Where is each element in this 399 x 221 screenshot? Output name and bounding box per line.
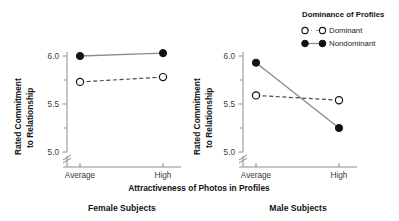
data-point-nondominant-high-right[interactable] xyxy=(335,124,342,131)
panel-caption-male: Male Subjects xyxy=(269,203,327,213)
data-point-nondominant-average-left[interactable] xyxy=(76,52,83,59)
legend-entry-dominant[interactable]: Dominant xyxy=(302,26,363,35)
data-point-dominant-high-left[interactable] xyxy=(159,74,166,81)
series-dominant-right[interactable] xyxy=(252,92,342,104)
series-nondominant-right[interactable] xyxy=(252,59,342,132)
data-point-dominant-average-right[interactable] xyxy=(252,92,259,99)
y-tick-label-5-5: 5.5 xyxy=(48,100,60,109)
y-tick-label-6-0-right: 6.0 xyxy=(224,52,236,61)
y-tick-label-5-5-right: 5.5 xyxy=(224,100,236,109)
legend-label-nondominant: Nondominant xyxy=(329,39,376,48)
y-tick-label-5-0-right: 5.0 xyxy=(224,148,236,157)
data-point-nondominant-average-right[interactable] xyxy=(252,59,259,66)
y-axis-break-left xyxy=(63,155,71,167)
x-category-label-high-right: High xyxy=(331,171,348,180)
y-axis-label-line2-right: to Relationship xyxy=(204,88,214,149)
x-axis-title: Attractiveness of Photos in Profiles xyxy=(128,183,270,193)
open-circle-icon-2 xyxy=(319,27,325,33)
series-line-dominant-left xyxy=(80,77,163,82)
data-point-dominant-high-right[interactable] xyxy=(335,97,342,104)
y-axis-break-right xyxy=(239,155,247,167)
series-nondominant-left[interactable] xyxy=(76,50,166,60)
x-category-label-average-right: Average xyxy=(241,171,272,180)
y-tick-label-6-0: 6.0 xyxy=(48,52,60,61)
series-line-nondominant-right xyxy=(256,63,339,128)
filled-circle-icon-2 xyxy=(319,40,326,47)
series-line-nondominant-left xyxy=(80,53,163,56)
legend-title: Dominance of Profiles xyxy=(302,10,385,19)
open-circle-icon xyxy=(302,27,308,33)
legend-entry-nondominant[interactable]: Nondominant xyxy=(302,39,377,48)
x-category-label-high-left: High xyxy=(155,171,172,180)
legend: Dominance of Profiles Dominant Nondomina… xyxy=(302,10,385,48)
legend-label-dominant: Dominant xyxy=(329,26,363,35)
y-axis-label-line1-right: Rated Commitment xyxy=(192,78,202,155)
y-axis-label-right: Rated Commitment to Relationship xyxy=(192,78,214,155)
x-category-label-average-left: Average xyxy=(65,171,96,180)
y-axis-label-line2: to Relationship xyxy=(25,88,35,149)
data-point-nondominant-high-left[interactable] xyxy=(159,50,166,57)
y-tick-label-5-0: 5.0 xyxy=(48,148,60,157)
filled-circle-icon xyxy=(302,40,309,47)
y-ticks-left: 6.0 5.5 5.0 xyxy=(48,52,67,157)
series-dominant-left[interactable] xyxy=(76,74,166,86)
y-axis-label-line1: Rated Commitment xyxy=(13,78,23,155)
data-point-dominant-average-left[interactable] xyxy=(76,78,83,85)
y-ticks-right: 6.0 5.5 5.0 xyxy=(224,52,243,157)
y-axis-label-left: Rated Commitment to Relationship xyxy=(13,78,35,155)
panel-caption-female: Female Subjects xyxy=(88,203,156,213)
interaction-plot-figure: Dominance of Profiles Dominant Nondomina… xyxy=(0,0,399,221)
figure-container: Dominance of Profiles Dominant Nondomina… xyxy=(0,0,399,221)
